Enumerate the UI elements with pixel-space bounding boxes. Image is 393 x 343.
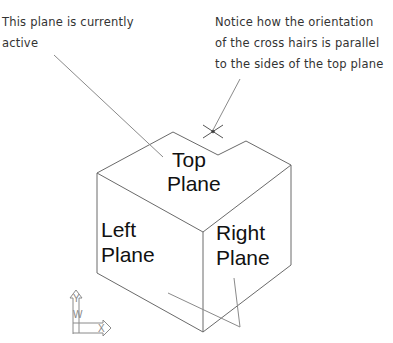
ucs-x-label: X <box>98 323 105 334</box>
bottom-leader-left <box>168 293 240 327</box>
ucs-y-label: Y <box>73 293 80 304</box>
crosshair-leader <box>213 79 240 130</box>
ucs-w-label: W <box>73 309 83 320</box>
active-plane-leader <box>54 55 163 157</box>
top-plane-label: Top Plane <box>167 148 221 195</box>
isometric-box-diagram: Top Plane Left Plane Right Plane Y W X <box>0 0 393 343</box>
bottom-right-edge <box>203 265 291 332</box>
right-plane-label: Right Plane <box>216 221 271 269</box>
crosshair-icon <box>203 125 223 138</box>
bottom-leader-right <box>234 278 240 327</box>
left-plane-label: Left Plane <box>101 218 155 266</box>
